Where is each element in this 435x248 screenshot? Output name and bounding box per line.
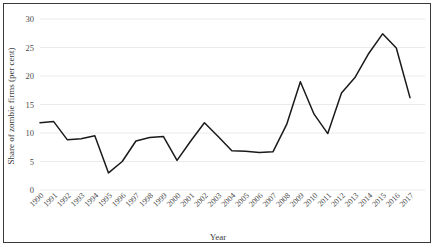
chart-figure: 051015202530 199019911992199319941995199… bbox=[0, 0, 435, 248]
y-axis-tick-label: 0 bbox=[30, 185, 34, 195]
data-series-line bbox=[40, 34, 410, 173]
x-axis-tick-labels: 1990199119921993199419951996199719981999… bbox=[28, 191, 416, 209]
y-axis-tick-label: 10 bbox=[26, 128, 35, 138]
line-chart: 051015202530 199019911992199319941995199… bbox=[0, 0, 435, 248]
x-axis-title: Year bbox=[210, 232, 227, 242]
y-axis-tick-label: 30 bbox=[26, 14, 35, 24]
y-axis-tick-label: 25 bbox=[26, 43, 35, 53]
y-axis-tick-label: 5 bbox=[30, 157, 34, 167]
x-axis-tick-label: 2017 bbox=[398, 191, 416, 209]
y-axis-tick-label: 20 bbox=[26, 71, 35, 81]
y-axis-title: Share of zombie firms (per cent) bbox=[6, 47, 16, 164]
y-axis-tick-label: 15 bbox=[26, 100, 35, 110]
y-axis-tick-labels: 051015202530 bbox=[26, 14, 35, 195]
gridlines bbox=[40, 19, 425, 190]
